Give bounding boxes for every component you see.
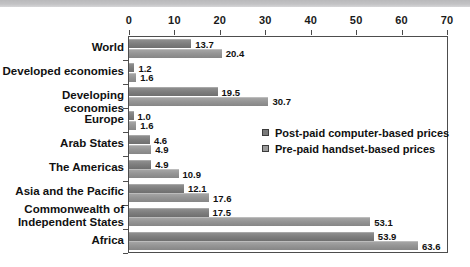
x-tick-mark [129, 30, 130, 35]
bar-pre-paid [129, 169, 179, 178]
bar-value-label: 20.4 [226, 48, 245, 59]
bar-value-label: 1.6 [140, 120, 153, 131]
x-tick-label: 20 [214, 14, 227, 26]
x-tick-mark [356, 30, 357, 35]
chart-row: Developed economies1.21.6 [0, 60, 470, 84]
bar-pre-paid [129, 145, 151, 154]
legend-swatch-icon [262, 145, 269, 152]
x-tick-mark [311, 30, 312, 35]
bar-post-paid [129, 232, 374, 241]
x-axis-tick-labels: 010203040506070 [0, 14, 470, 30]
bar-pre-paid [129, 97, 268, 106]
category-label: Asia and the Pacific [2, 185, 124, 198]
bar-value-label: 53.1 [374, 217, 393, 228]
category-label: Europe [2, 113, 124, 126]
chart-row: The Americas4.910.9 [0, 157, 470, 181]
legend-label: Pre-paid handset-based prices [275, 143, 435, 155]
x-tick-label: 70 [441, 14, 454, 26]
category-label: Commonwealth of Independent States [2, 203, 124, 228]
x-tick-label: 10 [168, 14, 181, 26]
category-label: The Americas [2, 161, 124, 174]
x-tick-label: 30 [259, 14, 272, 26]
bar-post-paid [129, 111, 134, 120]
chart-row: Africa53.963.6 [0, 229, 470, 253]
bar-pre-paid [129, 217, 370, 226]
category-label: Africa [2, 234, 124, 247]
category-axis-tick [123, 253, 128, 254]
bar-post-paid [129, 208, 209, 217]
bar-post-paid [129, 160, 151, 169]
bar-post-paid [129, 184, 184, 193]
bar-post-paid [129, 135, 150, 144]
x-tick-mark [265, 30, 266, 35]
bar-value-label: 4.9 [155, 144, 168, 155]
category-label: Developed economies [2, 65, 124, 78]
bar-post-paid [129, 63, 134, 72]
category-label: World [2, 41, 124, 54]
chart-row: Developing economies19.530.7 [0, 84, 470, 108]
bar-pre-paid [129, 121, 136, 130]
bar-value-label: 10.9 [183, 169, 202, 180]
category-label: Arab States [2, 137, 124, 150]
bar-value-label: 17.6 [213, 193, 232, 204]
x-tick-mark [402, 30, 403, 35]
bar-post-paid [129, 87, 218, 96]
horizontal-bar-chart: 010203040506070 World13.720.4Developed e… [0, 0, 470, 267]
bar-pre-paid [129, 49, 222, 58]
chart-row: Commonwealth of Independent States17.553… [0, 205, 470, 229]
bar-pre-paid [129, 73, 136, 82]
x-tick-label: 60 [395, 14, 408, 26]
x-tick-mark [447, 30, 448, 35]
chart-row: World13.720.4 [0, 36, 470, 60]
bar-value-label: 30.7 [272, 96, 291, 107]
x-tick-mark [174, 30, 175, 35]
bar-value-label: 63.6 [422, 241, 441, 252]
x-tick-label: 40 [304, 14, 317, 26]
chart-legend: Post-paid computer-based pricesPre-paid … [262, 126, 452, 158]
bar-value-label: 1.6 [140, 72, 153, 83]
legend-item: Post-paid computer-based prices [262, 126, 452, 139]
bar-pre-paid [129, 241, 418, 250]
bar-post-paid [129, 39, 191, 48]
legend-swatch-icon [262, 129, 269, 136]
x-tick-mark [220, 30, 221, 35]
bar-pre-paid [129, 193, 209, 202]
legend-label: Post-paid computer-based prices [275, 127, 449, 139]
chart-row: Asia and the Pacific12.117.6 [0, 181, 470, 205]
x-tick-label: 0 [126, 14, 132, 26]
legend-item: Pre-paid handset-based prices [262, 142, 452, 155]
x-tick-label: 50 [350, 14, 363, 26]
